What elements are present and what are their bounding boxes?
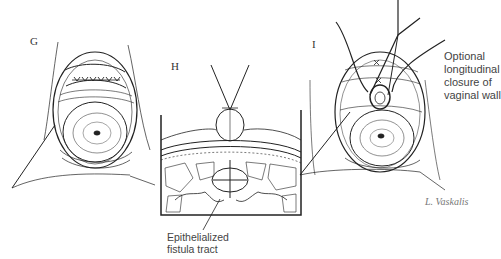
panel-h-drawing	[161, 65, 301, 230]
panel-label-i: I	[312, 38, 316, 50]
panel-i-drawing	[300, 0, 445, 190]
artist-signature: L. Vaskalis	[425, 196, 468, 207]
panel-label-h: H	[171, 60, 179, 72]
annotation-epithelialized-fistula-tract: Epithelialized fistula tract	[167, 231, 229, 255]
panel-g-drawing	[12, 42, 155, 188]
annotation-optional-longitudinal-closure: Optional longitudinal closure of vaginal…	[444, 50, 501, 102]
illustration-canvas	[0, 0, 501, 259]
panel-label-g: G	[30, 35, 38, 47]
